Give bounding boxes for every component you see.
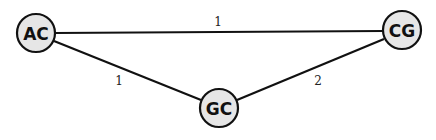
node-gc: GC: [200, 89, 238, 127]
node-ac-label: AC: [23, 24, 49, 44]
node-cg-label: CG: [389, 21, 415, 41]
edge-ac-gc: [54, 41, 201, 100]
edge-ac-cg: [55, 31, 383, 33]
edge-weight-gc-cg: 2: [314, 74, 322, 88]
edge-weight-ac-cg: 1: [214, 15, 222, 29]
edge-weight-ac-gc: 1: [115, 74, 123, 88]
node-gc-label: GC: [206, 99, 232, 119]
graph-diagram: 1 1 2 AC CG GC: [0, 0, 436, 140]
node-ac: AC: [17, 14, 55, 52]
node-cg: CG: [383, 11, 421, 49]
edge-gc-cg: [237, 39, 384, 100]
